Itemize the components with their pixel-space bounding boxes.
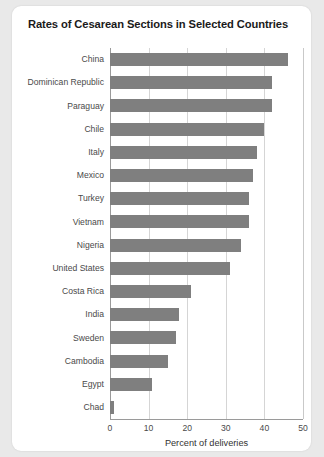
bar-row: Turkey: [110, 187, 303, 210]
x-tick-label: 30: [221, 423, 231, 433]
category-label: Chile: [84, 125, 104, 134]
bar: [110, 169, 253, 182]
bar: [110, 285, 191, 298]
bar-row: Dominican Republic: [110, 71, 303, 94]
bar-row: Sweden: [110, 326, 303, 349]
x-tick-label: 10: [144, 423, 154, 433]
x-tick-label: 20: [182, 423, 192, 433]
bar: [110, 401, 114, 414]
chart-card: Rates of Cesarean Sections in Selected C…: [12, 6, 311, 451]
category-label: Chad: [83, 403, 104, 412]
bar: [110, 262, 230, 275]
x-tick-label: 0: [108, 423, 113, 433]
bar-row: Nigeria: [110, 234, 303, 257]
category-label: Italy: [88, 148, 104, 157]
bar-row: Italy: [110, 141, 303, 164]
gridline-50: [303, 48, 304, 419]
category-label: Nigeria: [77, 241, 104, 250]
bar: [110, 123, 264, 136]
category-label: Costa Rica: [62, 287, 104, 296]
chart-title: Rates of Cesarean Sections in Selected C…: [28, 18, 288, 30]
bar: [110, 331, 176, 344]
bar: [110, 355, 168, 368]
bar-row: China: [110, 48, 303, 71]
category-label: India: [85, 310, 104, 319]
x-tick-label: 40: [260, 423, 270, 433]
bar-row: India: [110, 303, 303, 326]
bar: [110, 146, 257, 159]
bar-row: Paraguay: [110, 94, 303, 117]
bar-row: United States: [110, 257, 303, 280]
bar: [110, 378, 152, 391]
category-label: Vietnam: [73, 218, 104, 227]
category-label: United States: [52, 264, 104, 273]
bar: [110, 53, 288, 66]
bar: [110, 308, 179, 321]
category-label: Sweden: [73, 334, 104, 343]
category-label: Mexico: [77, 171, 104, 180]
bar-row: Mexico: [110, 164, 303, 187]
bar: [110, 99, 272, 112]
category-label: Turkey: [78, 194, 104, 203]
bar-row: Cambodia: [110, 349, 303, 372]
category-label: Dominican Republic: [28, 78, 104, 87]
category-label: Egypt: [82, 380, 104, 389]
x-axis-line: [110, 419, 303, 420]
category-label: Paraguay: [67, 102, 104, 111]
bar: [110, 76, 272, 89]
bar-series: ChinaDominican RepublicParaguayChileItal…: [110, 48, 303, 419]
x-tick-label: 50: [298, 423, 308, 433]
plot-area: ChinaDominican RepublicParaguayChileItal…: [110, 48, 303, 419]
bar-row: Chad: [110, 396, 303, 419]
bar: [110, 239, 241, 252]
bar-row: Chile: [110, 118, 303, 141]
bar: [110, 192, 249, 205]
bar-row: Vietnam: [110, 210, 303, 233]
category-label: Cambodia: [65, 357, 104, 366]
category-label: China: [82, 55, 104, 64]
bar-row: Egypt: [110, 373, 303, 396]
bar: [110, 215, 249, 228]
bar-row: Costa Rica: [110, 280, 303, 303]
x-axis-tick-labels: 01020304050: [110, 423, 303, 437]
x-axis-title: Percent of deliveries: [110, 438, 303, 448]
